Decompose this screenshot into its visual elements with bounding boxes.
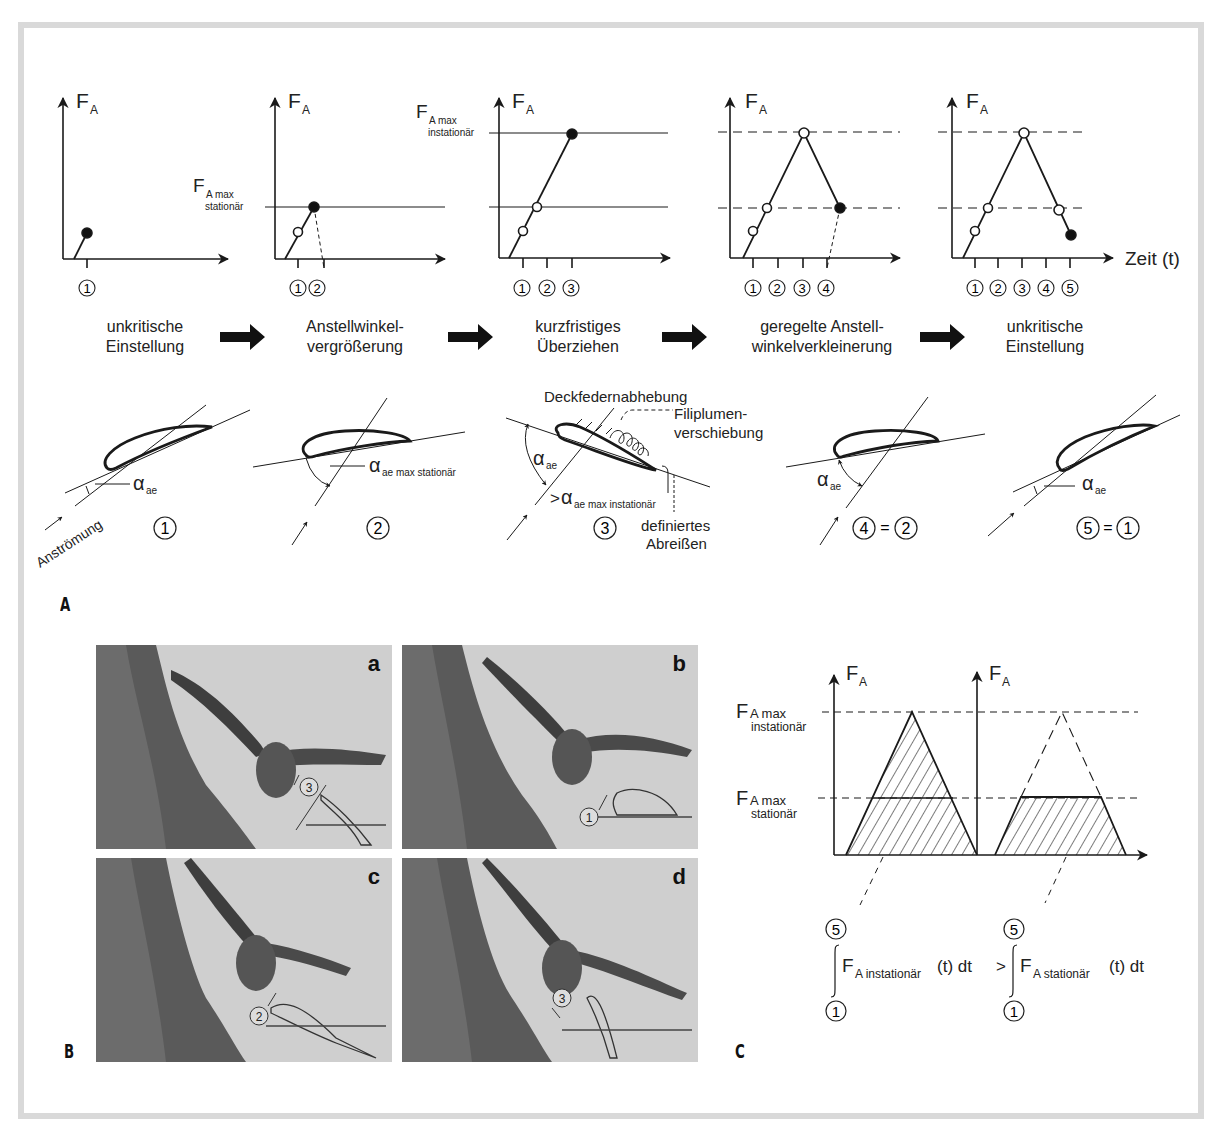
photo-letter-a: a [368,651,380,677]
svg-text:2: 2 [902,520,911,537]
svg-text:ae: ae [830,481,842,492]
svg-text:3: 3 [559,992,566,1006]
svg-text:4: 4 [822,281,829,296]
panel-label-c: C [735,1040,745,1062]
svg-text:F: F [745,89,758,112]
svg-text:F: F [966,89,979,112]
svg-text:2: 2 [313,281,320,296]
svg-text:α: α [369,454,381,476]
svg-text:α: α [817,468,829,490]
tick-labels: 1 1 2 1 2 3 1 2 3 4 1 2 3 4 5 [79,280,1078,296]
bird-photo-illustration: 2 [96,858,392,1062]
svg-text:2: 2 [374,520,383,537]
graph-2-ticks: 1 2 [290,280,325,296]
svg-text:instationär: instationär [751,720,806,734]
svg-text:ae max instationär: ae max instationär [574,499,656,510]
svg-text:=: = [1103,519,1112,536]
graph-2 [265,98,445,268]
svg-text:F: F [1020,955,1032,976]
svg-text:4: 4 [860,520,869,537]
graph-1-ticks: 1 [79,280,95,296]
svg-text:A max: A max [206,189,234,200]
airfoil-5 [988,395,1180,536]
graph-3 [489,98,670,268]
svg-text:2: 2 [994,281,1001,296]
svg-text:Filiplumen-: Filiplumen- [674,405,747,422]
svg-text:α: α [133,472,145,494]
graph-3-ticks: 1 2 3 [514,280,579,296]
svg-text:=: = [880,519,889,536]
graph-5 [938,98,1113,268]
svg-text:1: 1 [161,520,170,537]
deckfedern-label: Deckfedernabhebung [544,388,687,405]
svg-text:1: 1 [518,281,525,296]
svg-text:(t) dt: (t) dt [1109,957,1144,976]
stage-label-1: unkritischeEinstellung [85,317,205,357]
svg-text:2: 2 [543,281,550,296]
graph-axis-labels: FA FA FA FA FA Zeit (t) F A max stationä… [76,89,1180,269]
svg-text:A: A [980,103,988,117]
svg-text:>: > [996,957,1006,976]
bird-photo-illustration: 3 [402,858,698,1062]
photo-c: 2 c [96,858,392,1062]
stage-label-5: unkritischeEinstellung [985,317,1105,357]
svg-text:A max: A max [750,793,787,808]
photo-d: 3 d [402,858,698,1062]
svg-text:5: 5 [832,921,840,938]
flow-arrow-icon [220,324,265,350]
flow-arrow-icon [920,324,965,350]
svg-text:5: 5 [1066,281,1073,296]
airfoil-1 [45,405,250,530]
stage-label-2: Anstellwinkel-vergrößerung [280,317,430,357]
svg-text:ae: ae [146,485,158,496]
svg-text:3: 3 [798,281,805,296]
svg-text:A: A [759,103,767,117]
svg-text:1: 1 [1124,520,1133,537]
svg-text:F: F [512,89,525,112]
svg-text:1: 1 [586,811,593,825]
svg-text:A instationär: A instationär [855,967,921,981]
stage-label-3: kurzfristigesÜberziehen [508,317,648,357]
flow-arrow-icon [448,324,493,350]
svg-text:A: A [1002,675,1010,689]
svg-text:F: F [193,175,205,196]
svg-text:F: F [288,89,301,112]
photo-letter-d: d [673,864,686,890]
svg-text:A: A [90,103,98,117]
svg-text:A: A [859,675,867,689]
graph-5-ticks: 1 2 3 4 5 [967,280,1078,296]
svg-text:F: F [416,101,428,122]
photo-b: 1 b [402,645,698,849]
svg-text:instationär: instationär [428,127,475,138]
graph-4 [718,98,900,268]
svg-text:α: α [533,447,545,469]
svg-text:3: 3 [567,281,574,296]
svg-text:ae: ae [546,460,558,471]
anstroemung-label: Anströmung [33,516,105,571]
svg-text:A: A [302,103,310,117]
svg-text:stationär: stationär [751,807,797,821]
svg-text:1: 1 [832,1003,840,1020]
svg-text:Abreißen: Abreißen [646,535,707,552]
svg-text:3: 3 [1018,281,1025,296]
svg-text:α: α [1082,472,1094,494]
bird-photo-illustration: 1 [402,645,698,849]
svg-text:1: 1 [749,281,756,296]
svg-text:A stationär: A stationär [1033,967,1090,981]
panel-label-a: A [60,593,70,615]
svg-text:A max: A max [429,115,457,126]
svg-text:F: F [76,89,89,112]
svg-text:verschiebung: verschiebung [674,424,763,441]
svg-text:A max: A max [750,706,787,721]
graph-4-ticks: 1 2 3 4 [745,280,834,296]
svg-text:1: 1 [294,281,301,296]
photo-letter-c: c [368,864,380,890]
svg-text:F: F [736,700,748,722]
photo-letter-b: b [673,651,686,677]
svg-text:>: > [550,489,560,508]
flow-arrow-icon [662,324,707,350]
stage-label-4: geregelte Anstell-winkelverkleinerung [732,317,912,357]
panel-c-chart [818,672,1147,997]
svg-text:3: 3 [601,520,610,537]
svg-text:ae max stationär: ae max stationär [382,467,457,478]
